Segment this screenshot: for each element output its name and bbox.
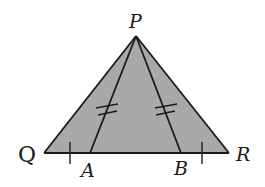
label-q: Q <box>18 142 36 167</box>
label-a: A <box>79 159 95 181</box>
triangle-pqr-fill <box>44 36 229 153</box>
label-p: P <box>128 10 143 32</box>
label-b: B <box>173 157 188 179</box>
label-r: R <box>235 143 250 165</box>
triangle-diagram: P Q R A B <box>0 0 265 187</box>
